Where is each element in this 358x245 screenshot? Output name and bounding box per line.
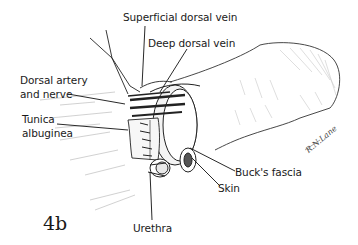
label-superficial-dorsal-vein: Superficial dorsal vein: [123, 11, 237, 23]
label-tunica-line2: albuginea: [22, 127, 73, 139]
cross-section: [128, 84, 200, 177]
label-urethra: Urethra: [133, 222, 172, 234]
label-tunica-line1: Tunica: [22, 113, 55, 125]
label-bucks-fascia: Buck's fascia: [235, 166, 302, 178]
label-deep-dorsal-vein: Deep dorsal vein: [148, 37, 235, 49]
distal-shaft-shading: [235, 48, 336, 125]
label-dorsal-artery-line2: and nerve: [20, 88, 72, 100]
label-skin: Skin: [218, 182, 240, 194]
figure-number: 4b: [43, 212, 67, 234]
anatomical-diagram: Superficial dorsal vein Deep dorsal vein…: [0, 0, 358, 245]
label-dorsal-artery-line1: Dorsal artery: [20, 74, 88, 86]
proximal-shaft: [40, 92, 135, 210]
